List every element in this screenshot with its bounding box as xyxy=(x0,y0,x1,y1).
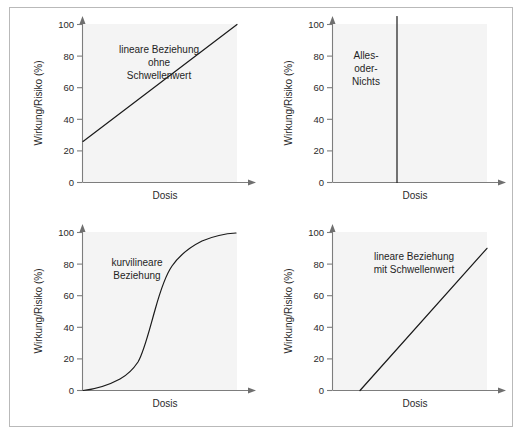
annotation-line-2: ohne xyxy=(148,57,171,68)
y-tick-label-0: 0 xyxy=(69,177,74,188)
y-axis-arrow xyxy=(330,224,336,232)
x-axis-arrow xyxy=(498,180,506,186)
y-tick-label-20: 20 xyxy=(63,145,74,156)
y-tick-label-0: 0 xyxy=(319,385,324,396)
plot-svg: 0 20 40 60 80 100 Wirkung/Risiko (%) Dos… xyxy=(12,10,262,218)
y-tick-label-0: 0 xyxy=(319,177,324,188)
annotation-line-1: kurvilineare xyxy=(111,257,163,268)
chart-panel-linear-with-threshold: 0 20 40 60 80 100 Wirkung/Risiko (%) Dos… xyxy=(262,218,512,426)
y-tick-label-80: 80 xyxy=(63,259,74,270)
y-tick-label-100: 100 xyxy=(58,19,74,30)
y-tick-label-80: 80 xyxy=(313,51,324,62)
annotation-line-3: Nichts xyxy=(352,76,380,87)
y-tick-label-40: 40 xyxy=(63,114,74,125)
y-axis-title: Wirkung/Risiko (%) xyxy=(33,60,44,145)
y-tick-label-60: 60 xyxy=(63,82,74,93)
annotation-line-3: Schwellenwert xyxy=(127,70,192,81)
x-axis-title: Dosis xyxy=(152,398,177,409)
chart-panel-linear-no-threshold: 0 20 40 60 80 100 Wirkung/Risiko (%) Dos… xyxy=(12,10,262,218)
y-tick-label-100: 100 xyxy=(308,227,324,238)
x-axis-title: Dosis xyxy=(152,190,177,201)
x-axis-arrow xyxy=(248,388,256,394)
y-tick-label-20: 20 xyxy=(63,353,74,364)
y-tick-label-80: 80 xyxy=(313,259,324,270)
plot-svg: 0 20 40 60 80 100 Wirkung/Risiko (%) Dos… xyxy=(262,10,512,218)
y-tick-label-0: 0 xyxy=(69,385,74,396)
x-axis-title: Dosis xyxy=(402,398,427,409)
y-tick-label-100: 100 xyxy=(308,19,324,30)
panel-grid: 0 20 40 60 80 100 Wirkung/Risiko (%) Dos… xyxy=(10,8,512,426)
y-axis-arrow xyxy=(80,224,86,232)
y-tick-label-20: 20 xyxy=(313,145,324,156)
y-tick-label-60: 60 xyxy=(313,290,324,301)
annotation-line-2: mit Schwellenwert xyxy=(374,264,455,275)
plot-svg: 0 20 40 60 80 100 Wirkung/Risiko (%) Dos… xyxy=(12,218,262,426)
data-line-linear xyxy=(83,25,237,142)
y-tick-label-60: 60 xyxy=(313,82,324,93)
y-tick-label-60: 60 xyxy=(63,290,74,301)
plot-svg: 0 20 40 60 80 100 Wirkung/Risiko (%) Dos… xyxy=(262,218,512,426)
y-tick-label-20: 20 xyxy=(313,353,324,364)
y-axis-title: Wirkung/Risiko (%) xyxy=(283,268,294,353)
annotation-line-1: lineare Beziehung xyxy=(119,44,199,55)
annotation-line-1: Alles- xyxy=(353,50,378,61)
x-axis-arrow xyxy=(498,388,506,394)
chart-panel-curvilinear: 0 20 40 60 80 100 Wirkung/Risiko (%) Dos… xyxy=(12,218,262,426)
annotation-line-1: lineare Beziehung xyxy=(374,251,454,262)
y-tick-label-80: 80 xyxy=(63,51,74,62)
chart-panel-all-or-nothing: 0 20 40 60 80 100 Wirkung/Risiko (%) Dos… xyxy=(262,10,512,218)
y-tick-label-40: 40 xyxy=(313,322,324,333)
annotation-line-2: Beziehung xyxy=(113,270,160,281)
y-axis-title: Wirkung/Risiko (%) xyxy=(283,60,294,145)
y-tick-label-40: 40 xyxy=(63,322,74,333)
figure-frame: 0 20 40 60 80 100 Wirkung/Risiko (%) Dos… xyxy=(9,7,513,427)
y-axis-arrow xyxy=(330,16,336,24)
annotation-line-2: oder- xyxy=(354,63,377,74)
y-axis-title: Wirkung/Risiko (%) xyxy=(33,268,44,353)
x-axis-title: Dosis xyxy=(402,190,427,201)
y-axis-arrow xyxy=(80,16,86,24)
y-tick-label-100: 100 xyxy=(58,227,74,238)
x-axis-arrow xyxy=(248,180,256,186)
y-tick-label-40: 40 xyxy=(313,114,324,125)
